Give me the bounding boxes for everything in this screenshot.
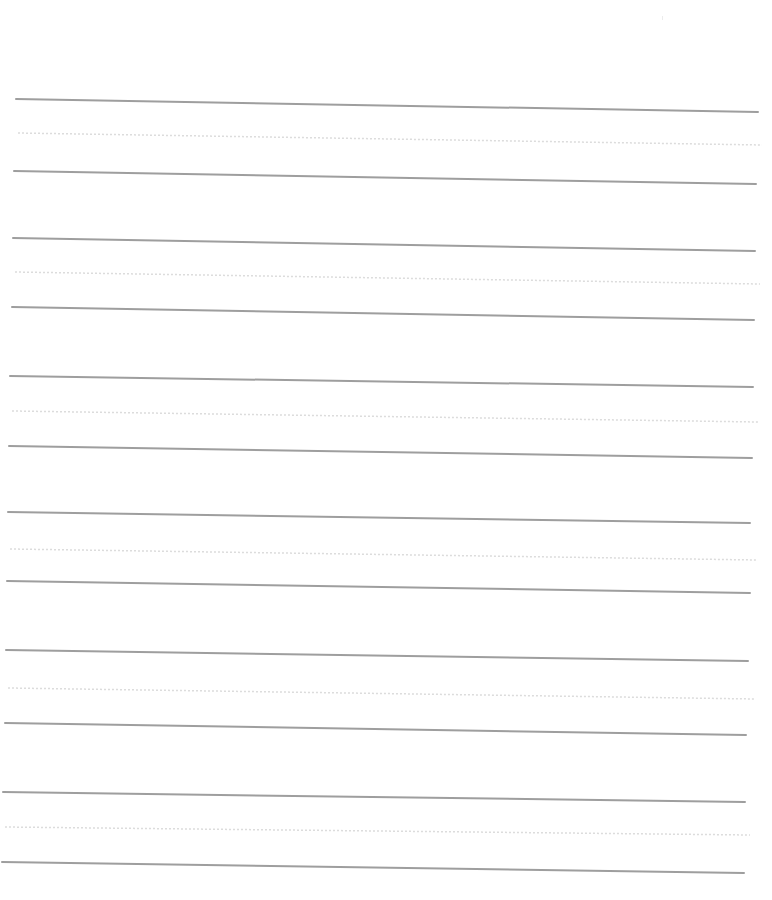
dotted-midline — [10, 549, 757, 560]
line-set — [5, 650, 755, 735]
dotted-midline — [18, 133, 762, 145]
bottom-solid-line — [14, 171, 756, 184]
bottom-solid-line — [12, 307, 754, 320]
top-solid-line — [10, 376, 753, 387]
top-solid-line — [13, 238, 755, 251]
line-set — [14, 99, 762, 184]
bottom-solid-line — [7, 581, 750, 593]
dotted-midline — [5, 827, 750, 835]
top-solid-line — [16, 99, 758, 112]
paper-speck — [662, 16, 663, 20]
line-set — [7, 512, 757, 593]
bottom-solid-line — [2, 862, 744, 873]
dotted-midline — [8, 688, 755, 699]
dotted-midline — [12, 411, 758, 422]
ruled-lines — [0, 0, 772, 900]
line-set — [12, 238, 760, 320]
writing-sheet — [0, 0, 772, 900]
top-solid-line — [6, 650, 748, 661]
bottom-solid-line — [9, 446, 752, 458]
line-set — [9, 376, 758, 458]
top-solid-line — [3, 792, 745, 802]
top-solid-line — [8, 512, 750, 523]
line-sets-group — [2, 99, 762, 873]
bottom-solid-line — [5, 723, 746, 735]
line-set — [2, 792, 750, 873]
dotted-midline — [15, 272, 760, 284]
